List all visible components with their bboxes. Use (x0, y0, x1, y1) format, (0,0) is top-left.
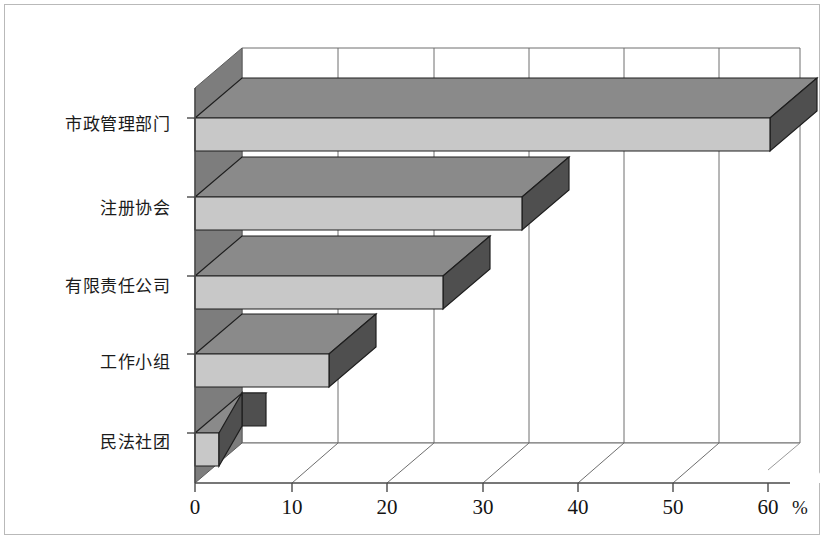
bar-zhu-ce-xie-hui[interactable] (195, 157, 569, 230)
floor-panel (195, 443, 826, 483)
xtick-label-50: 50 (643, 495, 703, 520)
x-axis (195, 483, 790, 492)
bar-top-face (195, 157, 569, 197)
xtick-label-40: 40 (548, 495, 608, 520)
x-axis-ticks (195, 483, 768, 492)
bar-shi-zheng-guan-li-bu-men[interactable] (195, 78, 817, 151)
category-label-2: 有限责任公司 (10, 272, 170, 297)
bar-front-face (195, 276, 443, 309)
xtick-label-20: 20 (357, 495, 417, 520)
x-axis-unit-label: % (792, 497, 808, 519)
bar-chart-3d (0, 0, 826, 541)
xtick-label-60: 60 (738, 495, 798, 520)
category-label-3: 工作小组 (10, 348, 170, 373)
bar-top-face (195, 236, 490, 276)
bar-front-face (195, 118, 770, 151)
chart-page: 市政管理部门 注册协会 有限责任公司 工作小组 民法社团 0 10 20 30 … (0, 0, 826, 541)
xtick-label-10: 10 (262, 495, 322, 520)
category-label-0: 市政管理部门 (10, 110, 170, 135)
bar-front-face (195, 433, 219, 466)
xtick-label-0: 0 (165, 495, 225, 520)
bar-top-face (195, 78, 817, 118)
xtick-label-30: 30 (453, 495, 513, 520)
category-label-1: 注册协会 (10, 194, 170, 219)
chart-floor (195, 443, 826, 483)
bar-front-face (195, 197, 522, 230)
category-label-4: 民法社团 (10, 428, 170, 453)
bar-you-xian-ze-ren-gong-si[interactable] (195, 236, 490, 309)
bar-front-face (195, 354, 329, 387)
bar-side-face (242, 393, 266, 426)
